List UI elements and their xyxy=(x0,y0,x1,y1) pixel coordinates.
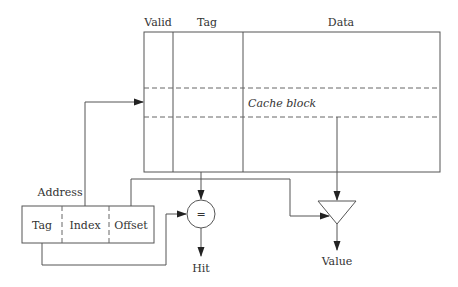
index-to-cache-line xyxy=(85,102,143,206)
cache-block-label: Cache block xyxy=(248,97,317,110)
column-header-data: Data xyxy=(328,16,355,29)
value-label: Value xyxy=(321,255,353,268)
comparator-symbol: = xyxy=(196,208,205,221)
cache-diagram: Valid Tag Data Cache block Address Tag I… xyxy=(0,0,458,287)
column-header-tag: Tag xyxy=(197,16,217,29)
mux-triangle xyxy=(318,201,356,224)
address-field-index: Index xyxy=(69,219,101,232)
address-field-offset: Offset xyxy=(114,219,148,232)
column-header-valid: Valid xyxy=(143,16,172,29)
address-field-tag: Tag xyxy=(32,219,52,232)
hit-label: Hit xyxy=(192,262,210,275)
address-label: Address xyxy=(36,186,82,199)
offset-to-mux-line xyxy=(131,179,329,216)
